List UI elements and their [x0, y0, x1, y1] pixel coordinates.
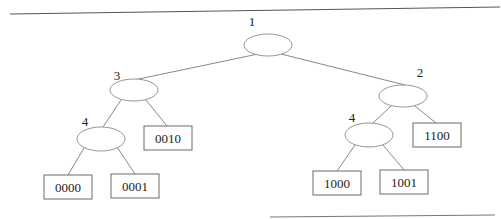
node-3-label: 3: [114, 68, 121, 83]
edge-1-2: [281, 54, 405, 85]
edge-4-1001: [383, 145, 404, 170]
node-1-ellipse: [244, 34, 292, 56]
internal-nodes: 1 3 2 4 4: [77, 14, 427, 151]
node-4-left-label: 4: [82, 114, 89, 129]
bottom-rule: [270, 215, 495, 217]
top-rule: [10, 7, 500, 14]
leaf-0010-label: 0010: [155, 131, 181, 146]
edge-3-0010: [146, 100, 167, 126]
node-4-right-ellipse: [345, 123, 393, 147]
edge-4-0001: [117, 147, 135, 174]
leaf-1100-label: 1100: [424, 128, 450, 143]
edge-2-4: [372, 106, 391, 124]
edge-3-4: [103, 100, 121, 127]
node-1-label: 1: [249, 14, 256, 29]
node-2-label: 2: [417, 65, 424, 80]
leaf-0001-label: 0001: [122, 179, 148, 194]
leaf-0000-label: 0000: [55, 180, 81, 195]
edge-4-1000: [337, 145, 355, 171]
node-2-ellipse: [379, 85, 427, 107]
trie-diagram: 1 3 2 4 4 0010 0000 0001 1100 1000 1001: [0, 0, 501, 219]
node-4-right-label: 4: [349, 110, 356, 125]
edge-4-0000: [68, 148, 84, 175]
edges: [68, 54, 436, 175]
leaf-1001-label: 1001: [391, 175, 417, 190]
node-4-left-ellipse: [77, 127, 125, 151]
leaf-1000-label: 1000: [324, 176, 350, 191]
edge-2-1100: [415, 106, 436, 123]
edge-1-3: [134, 54, 258, 80]
